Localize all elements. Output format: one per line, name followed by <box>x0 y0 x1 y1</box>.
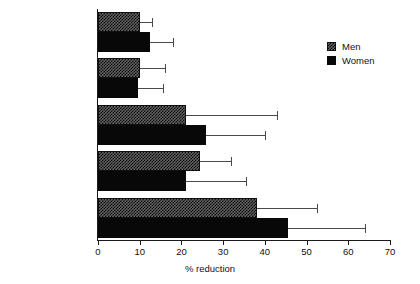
error-bar-line <box>140 68 165 69</box>
error-bar-line <box>186 181 246 182</box>
bar-men <box>98 198 257 218</box>
legend-swatch-women-icon <box>327 56 336 65</box>
bar-men <box>98 151 200 171</box>
x-tick-label: 60 <box>328 246 368 257</box>
error-bar-cap <box>277 111 278 120</box>
x-tick <box>140 241 141 245</box>
bar-women <box>98 218 288 238</box>
x-tick <box>348 241 349 245</box>
legend-swatch-men-icon <box>327 42 336 51</box>
bar-row <box>98 125 390 145</box>
bar-men <box>98 105 186 125</box>
error-bar-line <box>186 115 278 116</box>
x-tick <box>98 241 99 245</box>
bar-chart: BMIWaistCentral fat massSubcutaneous ATI… <box>0 0 420 284</box>
error-bar-cap <box>365 224 366 233</box>
x-tick-label: 10 <box>120 246 160 257</box>
error-bar-cap <box>163 84 164 93</box>
bar-women <box>98 125 206 145</box>
error-bar-cap <box>317 204 318 213</box>
legend-label-men: Men <box>342 41 360 52</box>
bar-row <box>98 12 390 32</box>
error-bar-line <box>138 88 163 89</box>
error-bar-cap <box>165 64 166 73</box>
bar-group: Subcutaneous AT <box>98 151 390 191</box>
error-bar-cap <box>152 18 153 27</box>
x-tick <box>390 241 391 245</box>
x-axis-title: % reduction <box>0 263 420 274</box>
error-bar-cap <box>173 38 174 47</box>
x-tick <box>223 241 224 245</box>
legend-item-women: Women <box>327 54 375 66</box>
bar-women <box>98 78 138 98</box>
error-bar-line <box>257 208 317 209</box>
error-bar-line <box>150 42 173 43</box>
x-tick-label: 0 <box>78 246 118 257</box>
error-bar-line <box>206 135 264 136</box>
x-tick <box>181 241 182 245</box>
x-tick-label: 70 <box>370 246 410 257</box>
bar-group: Intra-abdominal AT <box>98 198 390 238</box>
x-tick-label: 30 <box>203 246 243 257</box>
bar-men <box>98 58 140 78</box>
x-tick <box>307 241 308 245</box>
bar-women <box>98 171 186 191</box>
x-axis-line <box>97 240 391 241</box>
error-bar-line <box>200 161 231 162</box>
error-bar-cap <box>231 157 232 166</box>
legend-label-women: Women <box>342 55 375 66</box>
bar-row <box>98 198 390 218</box>
bar-row <box>98 151 390 171</box>
error-bar-cap <box>265 131 266 140</box>
x-tick-label: 50 <box>287 246 327 257</box>
bar-row <box>98 218 390 238</box>
bar-row <box>98 105 390 125</box>
bar-group: Central fat mass <box>98 105 390 145</box>
x-tick <box>265 241 266 245</box>
x-tick-label: 20 <box>161 246 201 257</box>
bar-row <box>98 171 390 191</box>
error-bar-line <box>288 228 365 229</box>
bar-row <box>98 78 390 98</box>
legend: Men Women <box>327 40 375 68</box>
x-tick-label: 40 <box>245 246 285 257</box>
error-bar-line <box>140 22 153 23</box>
error-bar-cap <box>246 177 247 186</box>
bar-women <box>98 32 150 52</box>
bar-men <box>98 12 140 32</box>
legend-item-men: Men <box>327 40 375 52</box>
